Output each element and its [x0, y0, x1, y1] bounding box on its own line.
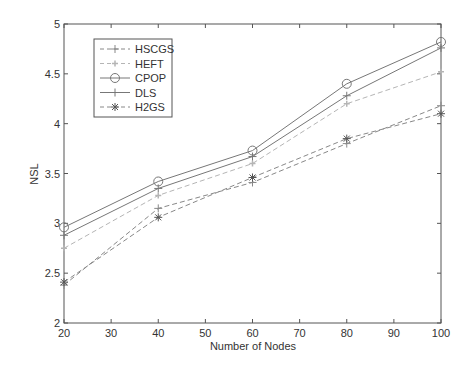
legend-label: CPOP — [135, 72, 166, 84]
plus-marker — [154, 204, 162, 212]
star-marker — [154, 213, 162, 221]
plus-marker — [60, 231, 68, 239]
star-marker — [343, 135, 351, 143]
series-line — [64, 114, 441, 282]
y-tick-label: 4 — [54, 118, 60, 130]
dot-marker — [250, 161, 256, 167]
x-tick-label: 80 — [341, 327, 353, 339]
y-axis-label: NSL — [28, 163, 40, 184]
legend-label: H2GS — [135, 101, 165, 113]
x-axis-label: Number of Nodes — [210, 340, 297, 352]
nsl-line-chart: 2030405060708090100 22.533.544.55 Number… — [0, 0, 475, 374]
dot-marker — [61, 245, 67, 251]
plus-marker — [343, 92, 351, 100]
series-h2gs — [60, 110, 445, 286]
series-line — [64, 106, 441, 285]
x-tick-label: 90 — [388, 327, 400, 339]
dot-marker — [155, 192, 161, 198]
y-tick-label: 5 — [54, 18, 60, 30]
legend-label: HSCGS — [135, 43, 174, 55]
legend-label: DLS — [135, 87, 156, 99]
y-tick-label: 2 — [54, 317, 60, 329]
x-tick-label: 50 — [199, 327, 211, 339]
star-marker — [111, 103, 119, 111]
y-tick-label: 4.5 — [45, 68, 60, 80]
y-tick-label: 3.5 — [45, 168, 60, 180]
plus-marker — [154, 184, 162, 192]
plus-marker — [437, 102, 445, 110]
series-hscgs — [60, 102, 445, 289]
star-marker — [60, 278, 68, 286]
star-marker — [437, 110, 445, 118]
dot-marker — [344, 101, 350, 107]
x-tick-label: 70 — [294, 327, 306, 339]
x-tick-label: 60 — [246, 327, 258, 339]
legend: HSCGSHEFTCPOPDLSH2GS — [94, 39, 174, 117]
y-tick-label: 2.5 — [45, 267, 60, 279]
x-tick-label: 30 — [105, 327, 117, 339]
x-tick-label: 40 — [152, 327, 164, 339]
legend-label: HEFT — [135, 58, 164, 70]
star-marker — [249, 173, 257, 181]
x-tick-label: 100 — [432, 327, 450, 339]
